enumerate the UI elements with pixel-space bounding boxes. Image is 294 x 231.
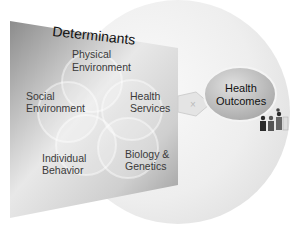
outcome-line2: Outcomes — [216, 95, 267, 107]
determinants-diagram: Determinants Physical Environment Social… — [0, 0, 294, 231]
label-individual-line1: Individual — [42, 152, 86, 164]
label-social-line1: Social — [26, 90, 55, 102]
health-outcomes-ellipse — [204, 67, 276, 121]
label-health-services-line2: Services — [130, 102, 170, 114]
label-biology-line2: Genetics — [125, 160, 166, 172]
svg-text:×: × — [190, 99, 196, 110]
label-individual-line2: Behavior — [42, 164, 84, 176]
label-social-line2: Environment — [26, 102, 85, 114]
label-health-services-line1: Health — [130, 90, 161, 102]
label-physical-line1: Physical — [72, 48, 111, 60]
label-physical-line2: Environment — [72, 61, 131, 73]
label-biology-line1: Biology & — [125, 148, 169, 160]
outcome-line1: Health — [225, 82, 257, 94]
